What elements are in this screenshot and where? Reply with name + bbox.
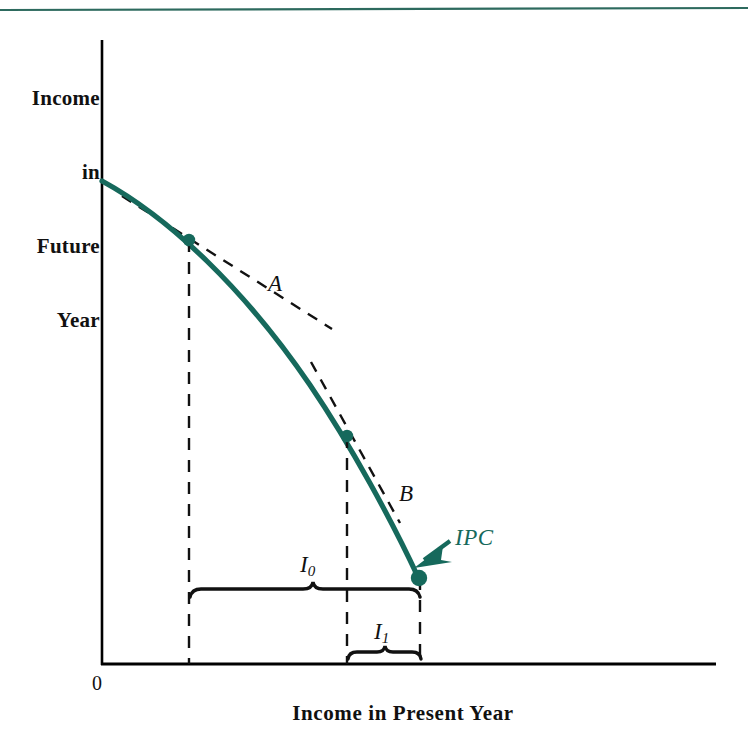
ipc-endpoint xyxy=(411,570,427,586)
tangent-b-label: B xyxy=(399,480,413,507)
y-axis-title-line-2: in xyxy=(2,160,100,185)
interval-i0-label: I0 xyxy=(300,551,315,581)
ipc-curve xyxy=(102,181,418,577)
origin-label: 0 xyxy=(92,672,102,696)
interval-i1-subscript: 1 xyxy=(382,630,390,646)
y-axis-title-line-3: Future xyxy=(2,234,100,259)
ipc-curve-label: IPC xyxy=(455,524,494,551)
brace-i0 xyxy=(190,582,420,597)
interval-i0-letter: I xyxy=(300,552,308,577)
interval-i0-subscript: 0 xyxy=(308,563,316,579)
interval-i1-label: I1 xyxy=(374,618,389,648)
y-axis-title-line-4: Year xyxy=(2,308,100,333)
brace-i1 xyxy=(348,646,421,659)
top-rule xyxy=(0,8,748,10)
tangent-line-a xyxy=(122,196,332,329)
figure-canvas: Income in Future Year Income in Present … xyxy=(0,0,748,742)
x-axis-title: Income in Present Year xyxy=(0,701,748,726)
tangency-point-b xyxy=(341,430,353,442)
y-axis-title-line-1: Income xyxy=(2,86,100,111)
tangent-line-b xyxy=(311,362,400,523)
tangent-a-label: A xyxy=(268,270,282,297)
y-axis-title: Income in Future Year xyxy=(2,36,100,383)
interval-i1-letter: I xyxy=(374,619,382,644)
tangency-point-a xyxy=(183,234,195,246)
ipc-arrow-head xyxy=(414,546,452,568)
ipc-arrow-shaft xyxy=(424,541,450,560)
